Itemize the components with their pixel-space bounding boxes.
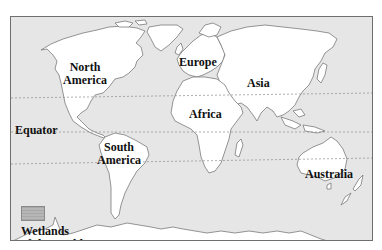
wetlands-legend-swatch xyxy=(21,206,45,221)
label-south-america: South America xyxy=(97,141,141,167)
label-africa: Africa xyxy=(189,108,222,121)
japan-landmass xyxy=(317,63,327,83)
label-equator: Equator xyxy=(15,124,58,137)
arctic-islands xyxy=(115,20,147,27)
label-asia: Asia xyxy=(247,77,270,90)
label-australia: Australia xyxy=(305,168,353,181)
label-north-america: North America xyxy=(63,61,107,87)
tasmania-landmass xyxy=(327,183,331,189)
label-europe: Europe xyxy=(179,56,217,69)
southeast-asia-islands xyxy=(281,109,325,133)
map-canvas xyxy=(11,17,373,241)
legend-label-line2: of the world xyxy=(21,238,83,241)
world-map: North America Europe Asia Africa Equator… xyxy=(10,16,373,241)
madagascar-landmass xyxy=(235,139,243,157)
label-south-america-line2: America xyxy=(97,154,141,167)
label-north-america-line2: America xyxy=(63,74,107,87)
legend-label: Wetlands of the world xyxy=(21,225,83,241)
